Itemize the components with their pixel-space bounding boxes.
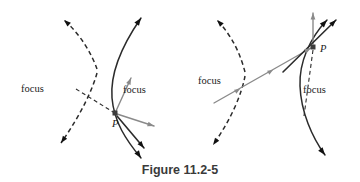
gray-right-ray-arrow-icon — [147, 122, 155, 129]
left-panel-point-p-marker — [113, 111, 118, 116]
right-panel-point-p-marker — [311, 45, 316, 50]
solid-branch-upper-arrow-icon — [134, 16, 143, 25]
figure-container: focus focus P — [0, 0, 360, 182]
right-panel-dark-tangent-ray — [283, 20, 336, 72]
left-panel-dashed-branch-lower — [61, 73, 97, 143]
gray-vertical-ray-arrow-icon — [311, 13, 316, 20]
hyperbola-reflection-left: focus focus P — [21, 16, 155, 159]
left-panel-dashed-branch-upper — [64, 20, 97, 69]
right-panel-gray-incident-ray — [214, 48, 311, 103]
left-panel-focus-near-label: focus — [123, 84, 146, 95]
right-panel-dashed-branch-lower — [213, 76, 245, 145]
left-panel-focus-far-label: focus — [21, 83, 44, 94]
solid-branch-lower-arrow-icon — [318, 147, 327, 156]
right-panel-focus-left-label: focus — [198, 75, 221, 86]
figure-svg: focus focus P — [0, 0, 360, 182]
right-panel-point-p-label: P — [319, 43, 327, 54]
right-panel-dashed-vertical-to-focus — [304, 50, 313, 116]
left-panel-point-p-label: P — [111, 118, 119, 129]
dashed-branch-upper-arrow-icon — [215, 18, 224, 27]
figure-caption: Figure 11.2-5 — [142, 163, 218, 177]
dashed-branch-lower-arrow-icon — [211, 138, 219, 147]
right-panel-focus-right-label: focus — [303, 84, 326, 95]
right-panel-dashed-branch-upper — [217, 20, 245, 72]
dashed-branch-upper-arrow-icon — [62, 18, 71, 27]
hyperbola-reflection-right: focus focus P — [198, 13, 338, 157]
